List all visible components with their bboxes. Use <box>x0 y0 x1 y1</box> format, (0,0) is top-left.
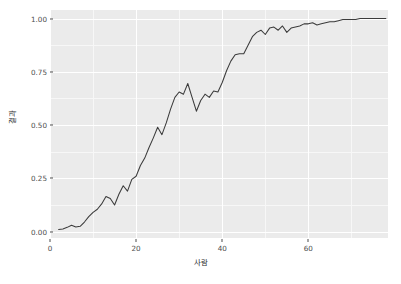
y-tick-mark <box>50 231 53 232</box>
x-tick-mark <box>136 239 137 242</box>
x-tick-label: 60 <box>304 244 313 253</box>
y-tick-mark <box>50 125 53 126</box>
y-tick-mark <box>50 178 53 179</box>
chart-container: 0.000.250.500.751.000204060 결과 사람 <box>0 0 401 284</box>
x-tick-label: 40 <box>218 244 227 253</box>
x-tick-label: 0 <box>48 244 53 253</box>
x-tick-label: 20 <box>132 244 141 253</box>
y-axis-title: 결과 <box>6 110 17 124</box>
y-tick-mark <box>50 71 53 72</box>
y-tick-label: 0.00 <box>31 227 47 236</box>
x-tick-mark <box>308 239 309 242</box>
y-tick-label: 1.00 <box>31 14 47 23</box>
y-tick-label: 0.50 <box>31 121 47 130</box>
axis-layer: 0.000.250.500.751.000204060 <box>0 0 401 284</box>
y-tick-label: 0.75 <box>31 67 47 76</box>
y-tick-mark <box>50 18 53 19</box>
x-axis-title: 사람 <box>0 256 401 267</box>
y-tick-label: 0.25 <box>31 174 47 183</box>
x-tick-mark <box>222 239 223 242</box>
x-tick-mark <box>50 239 51 242</box>
